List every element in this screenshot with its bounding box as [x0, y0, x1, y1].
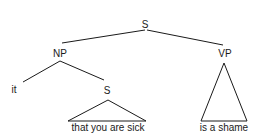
- node-np: NP: [53, 48, 67, 59]
- node-s-embedded: S: [104, 85, 111, 96]
- node-s-root: S: [142, 19, 149, 30]
- edge-np-it: [23, 61, 60, 82]
- edge-s-np: [62, 30, 145, 43]
- yield-vp: is a shame: [200, 122, 249, 133]
- node-it: it: [12, 84, 17, 95]
- triangle-embedded-s: [68, 100, 146, 121]
- syntax-tree: S NP VP it S that you are sick is a sham…: [0, 0, 260, 140]
- yield-embedded-s: that you are sick: [72, 122, 146, 133]
- edge-s-vp: [147, 30, 223, 45]
- edge-np-s: [60, 61, 104, 80]
- triangle-vp: [201, 63, 247, 121]
- node-vp: VP: [218, 48, 232, 59]
